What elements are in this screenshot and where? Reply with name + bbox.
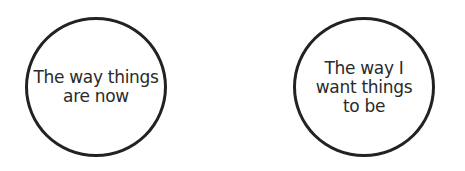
current-state-label: The way things are now <box>33 68 158 106</box>
desired-state-label: The way I want things to be <box>316 59 412 116</box>
current-state-circle: The way things are now <box>25 17 167 157</box>
desired-state-circle: The way I want things to be <box>293 17 435 157</box>
